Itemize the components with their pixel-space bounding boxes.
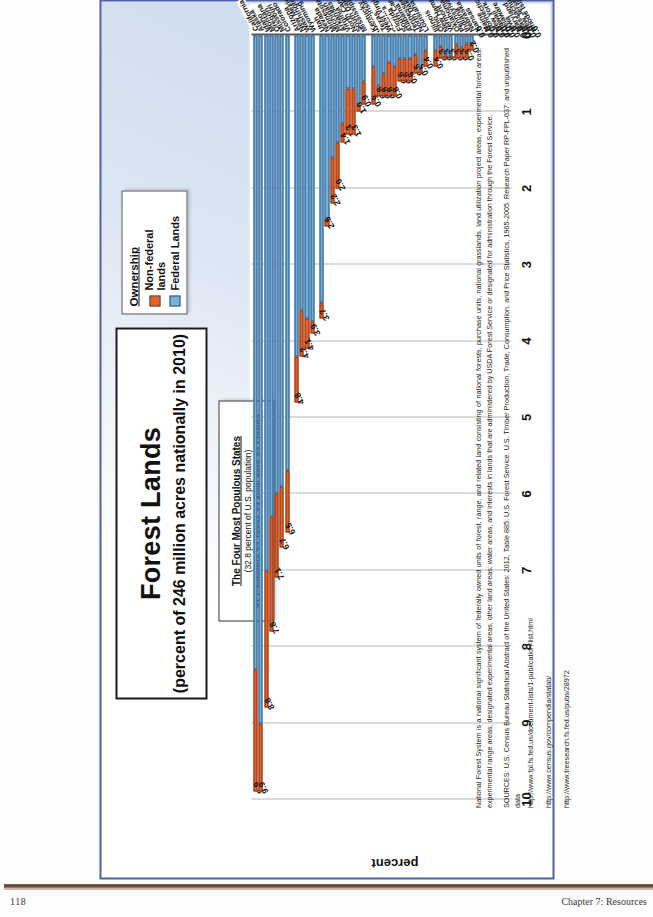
bar-segment-federal xyxy=(325,36,329,219)
title-box: Forest Lands (percent of 246 million acr… xyxy=(116,328,208,700)
source-url-1[interactable]: http://www.fpl.fs.fed.us/document-lists/… xyxy=(526,48,535,808)
stacked-bar xyxy=(330,36,334,204)
bar-segment-federal xyxy=(371,36,375,67)
printed-page: Forest Lands (percent of 246 million acr… xyxy=(0,0,653,917)
bar-segment-federal xyxy=(438,36,442,47)
bar-segment-federal xyxy=(413,36,417,55)
legend-label-federal: Federal Lands xyxy=(169,216,181,291)
stacked-bar xyxy=(310,36,314,334)
stacked-bar xyxy=(275,36,279,578)
chart-row: Vermont0.3 xyxy=(449,36,453,800)
chapter-label: Chapter 7: Resources xyxy=(561,896,647,907)
bar-segment-federal xyxy=(269,36,273,517)
bar-segment-federal xyxy=(346,36,350,89)
chart-row: Georgia0.8 xyxy=(392,36,396,800)
source-url-2[interactable]: http://www.census.gov/compendia/statab/ xyxy=(544,48,553,808)
bar-segment-nonfederal xyxy=(254,670,258,792)
chart-row: Alaska9.9 xyxy=(259,36,263,800)
bar-segment-federal xyxy=(254,36,258,670)
chart-row: Oregon7.1 xyxy=(275,36,279,800)
stacked-bar xyxy=(259,36,263,792)
bar-segment-federal xyxy=(403,36,407,59)
chart-row: Oklahoma0.3 xyxy=(454,36,458,800)
stacked-bar xyxy=(335,36,339,189)
chart-row: Nevada2.5 xyxy=(325,36,329,800)
footer-rule-secondary xyxy=(4,888,653,890)
legend-swatch-nonfederal-icon xyxy=(149,296,160,307)
bar-segment-nonfederal xyxy=(275,494,279,578)
stacked-bar xyxy=(351,36,355,135)
axis-title-text: percent xyxy=(371,856,418,871)
chart-row: Florida0.6 xyxy=(397,36,401,800)
bar-segment-federal xyxy=(259,36,263,724)
bar-segment-federal xyxy=(330,36,334,158)
chart-row: Missouri6.7 xyxy=(280,36,284,800)
bar-segment-federal xyxy=(362,36,366,82)
callout-line-2: (32.8 percent of U.S. population) xyxy=(242,450,252,573)
legend-item-federal: Federal Lands xyxy=(169,199,181,307)
stacked-bar xyxy=(254,36,258,792)
chart-row: Idaho8.8 xyxy=(264,36,268,800)
chart-row: South Carolina0.6 xyxy=(403,36,407,800)
stacked-bar xyxy=(320,36,324,319)
chart-legend: Ownership Non-federal lands Federal Land… xyxy=(122,191,188,315)
chart-row: West Virginia0.8 xyxy=(387,36,391,800)
bar-segment-federal xyxy=(300,36,304,311)
legend-label-nonfederal: Non-federal lands xyxy=(143,199,167,291)
bar-segment-federal xyxy=(280,36,284,487)
bar-segment-federal xyxy=(387,36,391,63)
chart-row: North Carolina1.3 xyxy=(351,36,355,800)
bar-segment-federal xyxy=(275,36,279,494)
chart-row: Alabama0.6 xyxy=(408,36,412,800)
chart-row: Arizona4.8 xyxy=(294,36,298,800)
chart-row: Arkansas1.4 xyxy=(341,36,345,800)
chart-row: Virginia1.3 xyxy=(346,36,350,800)
chart-row: Louisiana0.4 xyxy=(424,36,428,800)
legend-swatch-federal-icon xyxy=(169,296,180,307)
bar-segment-federal xyxy=(424,36,428,51)
chart-row: Colorado6.5 xyxy=(285,36,289,800)
notes-column: National Forest System is a national sig… xyxy=(474,18,642,878)
stacked-bar xyxy=(280,36,284,548)
stacked-bar xyxy=(305,36,309,349)
bar-segment-federal xyxy=(433,36,437,51)
bar-segment-federal xyxy=(294,36,298,357)
chart-row: Tennessee0.5 xyxy=(413,36,417,800)
bar-segment-federal xyxy=(264,36,268,571)
bar-segment-nonfederal xyxy=(264,570,268,708)
chart-row: Wisconsin0.8 xyxy=(376,36,380,800)
stacked-bar xyxy=(346,36,350,135)
chart-row: Kentucky0.9 xyxy=(371,36,375,800)
bar-segment-federal xyxy=(341,36,345,124)
stacked-bar xyxy=(285,36,289,533)
chart-row: Mississippi0.9 xyxy=(362,36,366,800)
chart-row: Illinois0.4 xyxy=(433,36,437,800)
chart-row: Wyoming3.9 xyxy=(310,36,314,800)
bar-segment-federal xyxy=(356,36,360,105)
chart-row: New Mexico4.2 xyxy=(300,36,304,800)
chart-row: North Dakota0.5 xyxy=(418,36,422,800)
page-subtitle: (percent of 246 million acres nationally… xyxy=(170,334,188,693)
bar-segment-federal xyxy=(392,36,396,67)
callout-heading: The Four Most Populous States xyxy=(230,436,241,586)
page-title: Forest Lands xyxy=(135,427,166,600)
chart-row: Montana7.8 xyxy=(269,36,273,800)
chart-row: Texas0.8 xyxy=(382,36,386,800)
chart-row: Indiana0.3 xyxy=(465,36,469,800)
source-url-3[interactable]: http://www.treesearch.fs.fed.us/pubs/289… xyxy=(562,48,571,808)
chart-row: South Dakota1.0 xyxy=(356,36,360,800)
bar-segment-federal xyxy=(305,36,309,319)
bar-segment-federal xyxy=(320,36,324,303)
stacked-bar xyxy=(269,36,273,632)
chart-row: Ohio0.3 xyxy=(438,36,442,800)
bar-segment-federal xyxy=(397,36,401,59)
bar-segment-federal xyxy=(408,36,412,59)
chart-row: Minnesota2.2 xyxy=(330,36,334,800)
stacked-bar xyxy=(264,36,268,708)
chart-row: California9.9 xyxy=(254,36,258,800)
chart-row: New Hampshire0.3 xyxy=(444,36,448,800)
bar-segment-federal xyxy=(454,36,458,45)
chart-row: Michigan2.0 xyxy=(335,36,339,800)
bar-segment-federal xyxy=(310,36,314,323)
chart-row: Washington4.1 xyxy=(305,36,309,800)
